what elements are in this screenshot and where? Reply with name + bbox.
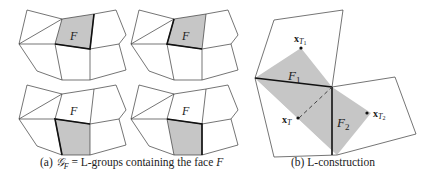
label-xT: xT (282, 114, 292, 127)
subpanel-bottom-right: F (131, 85, 238, 155)
subpanel-top-left: F (19, 10, 126, 80)
face-label-F: F (181, 29, 190, 43)
point-xT2 (365, 111, 368, 114)
face-label-F: F (69, 29, 78, 43)
face-label-F: F (69, 104, 78, 118)
shaded-face-below (167, 119, 202, 155)
label-xT2: xT2 (373, 108, 385, 121)
face-label-F: F (181, 104, 190, 118)
figure-canvas: F F F F x (0, 0, 427, 181)
point-xT1 (299, 46, 302, 49)
label-xT1: xT1 (294, 33, 306, 46)
caption-a: (a) 𝒢F = L-groups containing the face F (40, 156, 223, 171)
l-construction-panel: xT1 xT xT2 F1 F2 (255, 10, 416, 157)
shaded-region-F2 (255, 78, 371, 155)
caption-b: (b) L-construction (291, 156, 375, 168)
point-xT (296, 116, 299, 119)
subpanel-bottom-left: F (19, 85, 126, 155)
subpanel-top-right: F (131, 10, 238, 80)
